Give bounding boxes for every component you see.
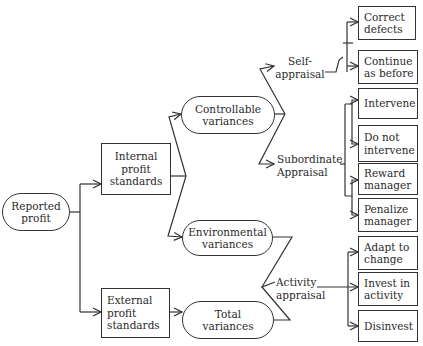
node-label: Environmental variances [188,226,267,251]
node-label: Reported profit [11,200,60,225]
outcome-label: Disinvest [364,320,413,333]
outcome-reward-manager: Reward manager [358,163,418,195]
outcome-label: Adapt to change [364,241,409,266]
outcome-do-not-intervene: Do not intervene [358,125,418,162]
outcome-label: Do not intervene [364,131,415,156]
label-self-appraisal: Self- appraisal [275,55,325,80]
outcome-invest-in-activity: Invest in activity [358,272,418,306]
outcome-label: Reward manager [364,167,411,192]
node-total-variances: Total variances [182,301,274,339]
outcome-label: Continue as before [364,55,413,80]
node-environmental-variances: Environmental variances [182,220,273,256]
outcome-penalize-manager: Penalize manager [358,198,418,232]
node-label: Internal profit standards [110,150,163,188]
node-label: Total variances [202,308,253,333]
outcome-disinvest: Disinvest [358,310,418,342]
node-label: Controllable variances [195,103,261,128]
outcome-label: Penalize manager [364,203,411,228]
outcome-adapt-to-change: Adapt to change [358,236,418,270]
label-subordinate-appraisal: Subordinate Appraisal [277,153,343,178]
node-external-profit-standards: External profit standards [101,288,170,338]
outcome-label: Correct defects [364,11,405,36]
node-label: External profit standards [107,294,160,332]
outcome-intervene: Intervene [358,88,418,119]
node-internal-profit-standards: Internal profit standards [101,143,171,195]
label-activity-appraisal: Activity appraisal [276,276,325,301]
outcome-label: Invest in activity [364,277,410,302]
outcome-correct-defects: Correct defects [358,6,416,40]
outcome-continue-as-before: Continue as before [358,50,418,84]
outcome-label: Intervene [364,97,416,110]
node-controllable-variances: Controllable variances [181,96,275,134]
node-reported-profit: Reported profit [2,193,70,231]
